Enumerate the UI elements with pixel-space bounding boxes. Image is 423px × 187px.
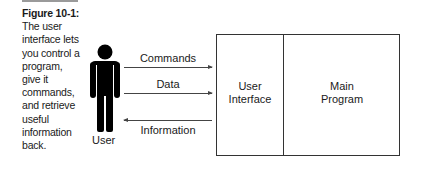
figure-caption: Figure 10-1: The user interface lets you… xyxy=(22,7,82,152)
data-arrow xyxy=(124,93,212,94)
data-label: Data xyxy=(123,78,213,90)
commands-label: Commands xyxy=(123,52,213,64)
main-program-label: Main Program xyxy=(284,80,400,106)
information-label: Information xyxy=(123,124,213,136)
user-label: User xyxy=(92,134,115,146)
main-program-line1: Main xyxy=(284,80,400,93)
user-interface-label: User Interface xyxy=(217,80,283,106)
person-icon xyxy=(88,44,122,134)
figure-caption-text: The user interface lets you control a pr… xyxy=(22,20,82,152)
user-interface-line1: User xyxy=(217,80,283,93)
caption-top-rule xyxy=(22,0,78,2)
figure-label: Figure 10-1: xyxy=(22,7,82,20)
commands-arrow xyxy=(124,67,212,68)
user-interface-line2: Interface xyxy=(217,93,283,106)
main-program-line2: Program xyxy=(284,93,400,106)
program-box: User Interface Main Program xyxy=(216,34,400,156)
information-arrow xyxy=(124,120,212,121)
